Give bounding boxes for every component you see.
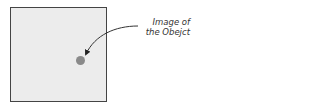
annotation-line-2: the Obejct: [134, 27, 190, 37]
annotation-line-1: Image of: [134, 17, 190, 27]
annotation-label: Image of the Obejct: [134, 17, 190, 37]
